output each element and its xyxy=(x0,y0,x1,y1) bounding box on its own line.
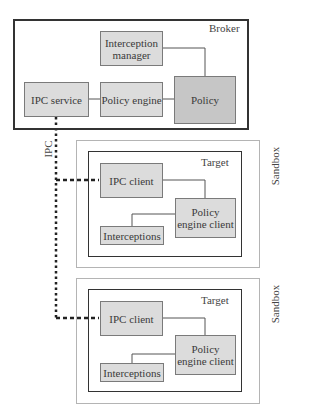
policy-engine-node: Policy engine xyxy=(100,82,163,117)
policy-engine-client-node: Policy engine client xyxy=(175,198,236,238)
interceptions-node: Interceptions xyxy=(100,226,164,245)
target-label: Target xyxy=(201,156,229,168)
interceptions-node: Interceptions xyxy=(100,363,164,382)
interception-manager-node: Interception manager xyxy=(100,31,163,66)
sandbox-label: Sandbox xyxy=(269,279,281,329)
ipc-channel-label: IPC xyxy=(42,137,54,161)
sandbox-label: Sandbox xyxy=(269,141,281,191)
ipc-client-node: IPC client xyxy=(100,301,163,336)
policy-engine-client-node: Policy engine client xyxy=(175,335,236,375)
target-label: Target xyxy=(201,294,229,306)
broker-label: Broker xyxy=(209,22,240,34)
ipc-client-node: IPC client xyxy=(100,163,163,198)
ipc-service-node: IPC service xyxy=(24,82,89,117)
policy-node: Policy xyxy=(174,76,236,124)
